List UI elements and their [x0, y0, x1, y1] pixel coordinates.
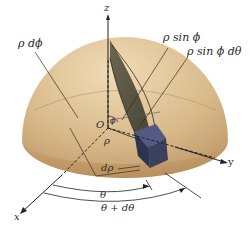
theta-label: θ: [100, 190, 106, 200]
drho-label: dρ: [101, 163, 113, 173]
rho-sinphi-label: ρ sin ϕ: [163, 32, 200, 43]
theta-plus-dtheta-label: θ + dθ: [101, 203, 134, 213]
z-axis-label: z: [104, 3, 109, 13]
rho-label: ρ: [104, 136, 110, 146]
diagram-canvas: [0, 0, 249, 232]
x-axis-label: x: [14, 212, 20, 222]
rho-dphi-label: ρ dϕ: [18, 38, 43, 49]
phi-label: ϕ: [110, 117, 115, 125]
y-axis-label: y: [228, 157, 234, 167]
spherical-coordinates-diagram: z x y ρ dϕ ρ sin ϕ ρ sin ϕ dθ O ϕ ρ dρ θ…: [0, 0, 249, 232]
rho-sinphi-dtheta-label: ρ sin ϕ dθ: [187, 46, 241, 57]
origin-label: O: [96, 120, 104, 130]
